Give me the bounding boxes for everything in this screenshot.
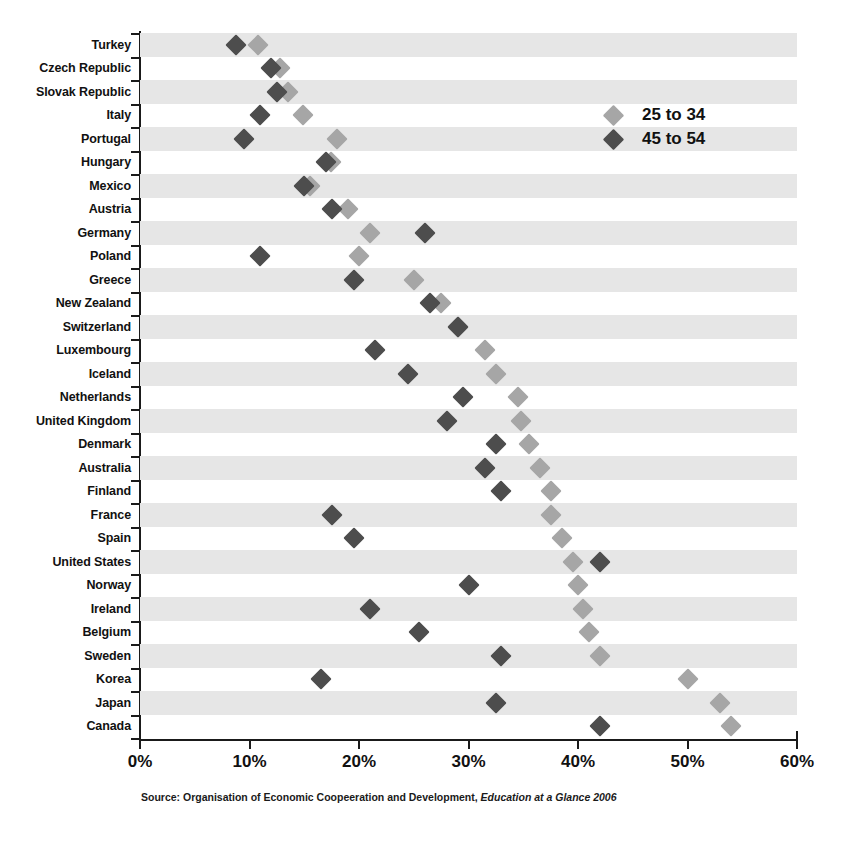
legend-label-25-34: 25 to 34 (642, 105, 705, 125)
category-label: Iceland (1, 368, 131, 381)
marker-25-34 (573, 598, 594, 619)
x-axis-tick (468, 741, 470, 749)
marker-25-34 (562, 551, 583, 572)
category-label: New Zealand (1, 297, 131, 310)
marker-45-54 (365, 340, 386, 361)
marker-45-54 (409, 622, 430, 643)
source-prefix: Source: Organisation of Economic Coopeer… (141, 791, 481, 803)
marker-25-34 (507, 387, 528, 408)
marker-45-54 (491, 481, 512, 502)
category-label: Switzerland (1, 321, 131, 334)
marker-25-34 (529, 457, 550, 478)
category-label: Luxembourg (1, 344, 131, 357)
category-label: Spain (1, 532, 131, 545)
legend: 25 to 34 45 to 54 (606, 103, 766, 151)
y-axis-tick (131, 480, 140, 482)
y-axis-tick (131, 315, 140, 317)
legend-label-45-54: 45 to 54 (642, 129, 705, 149)
marker-45-54 (589, 551, 610, 572)
y-axis-tick (131, 574, 140, 576)
tertiary-attainment-scatter-chart: TurkeyCzech RepublicSlovak RepublicItaly… (0, 0, 847, 842)
y-axis-tick (131, 174, 140, 176)
marker-25-34 (293, 105, 314, 126)
category-label: Germany (1, 227, 131, 240)
category-label: Ireland (1, 603, 131, 616)
marker-25-34 (551, 528, 572, 549)
x-axis-tick (249, 741, 251, 749)
category-label: Denmark (1, 438, 131, 451)
marker-25-34 (567, 575, 588, 596)
diamond-light-icon (603, 105, 624, 126)
y-axis-tick (131, 151, 140, 153)
category-label: Italy (1, 109, 131, 122)
x-axis-tick-label: 60% (780, 752, 814, 772)
category-label: Netherlands (1, 391, 131, 404)
marker-25-34 (348, 246, 369, 267)
y-axis-tick (131, 691, 140, 693)
marker-25-34 (248, 34, 269, 55)
marker-45-54 (250, 246, 271, 267)
y-axis-tick (131, 80, 140, 82)
marker-25-34 (359, 222, 380, 243)
y-axis-category-labels: TurkeyCzech RepublicSlovak RepublicItaly… (0, 33, 131, 738)
category-label: Slovak Republic (1, 86, 131, 99)
marker-25-34 (326, 128, 347, 149)
source-note: Source: Organisation of Economic Coopeer… (141, 791, 617, 803)
category-label: Austria (1, 203, 131, 216)
category-label: Japan (1, 697, 131, 710)
category-label: Mexico (1, 180, 131, 193)
category-label: Greece (1, 274, 131, 287)
marker-45-54 (485, 692, 506, 713)
y-axis-tick (131, 527, 140, 529)
y-axis-tick (131, 503, 140, 505)
y-axis-tick (131, 245, 140, 247)
marker-25-34 (578, 622, 599, 643)
y-axis-tick (131, 668, 140, 670)
category-label: France (1, 509, 131, 522)
marker-25-34 (721, 716, 742, 737)
x-axis-tick-label: 30% (451, 752, 485, 772)
marker-25-34 (589, 645, 610, 666)
marker-45-54 (447, 316, 468, 337)
marker-25-34 (510, 410, 531, 431)
x-axis-tick (139, 741, 141, 749)
marker-45-54 (310, 669, 331, 690)
marker-45-54 (452, 387, 473, 408)
marker-45-54 (398, 363, 419, 384)
category-label: Sweden (1, 650, 131, 663)
marker-45-54 (233, 128, 254, 149)
y-axis-tick (131, 198, 140, 200)
x-axis-tick (358, 741, 360, 749)
marker-45-54 (436, 410, 457, 431)
marker-25-34 (710, 692, 731, 713)
y-axis-tick (131, 57, 140, 59)
category-label: Korea (1, 673, 131, 686)
marker-45-54 (474, 457, 495, 478)
y-axis-tick (131, 33, 140, 35)
marker-45-54 (491, 645, 512, 666)
marker-25-34 (403, 269, 424, 290)
x-axis-tick-label: 0% (128, 752, 153, 772)
category-label: Belgium (1, 626, 131, 639)
x-axis-tick-label: 10% (232, 752, 266, 772)
marker-45-54 (250, 105, 271, 126)
category-label: United States (1, 556, 131, 569)
x-axis-tick (796, 741, 798, 749)
category-label: Turkey (1, 39, 131, 52)
category-label: Canada (1, 720, 131, 733)
y-axis-tick (131, 386, 140, 388)
marker-45-54 (343, 269, 364, 290)
category-label: United Kingdom (1, 415, 131, 428)
category-label: Portugal (1, 133, 131, 146)
y-axis-tick (131, 221, 140, 223)
y-axis-tick (131, 433, 140, 435)
y-axis-tick (131, 550, 140, 552)
marker-25-34 (485, 363, 506, 384)
x-axis-tick-label: 40% (561, 752, 595, 772)
source-title: Education at a Glance 2006 (481, 791, 617, 803)
diamond-dark-icon (603, 129, 624, 150)
marker-25-34 (540, 504, 561, 525)
marker-45-54 (321, 504, 342, 525)
marker-45-54 (359, 598, 380, 619)
marker-45-54 (589, 716, 610, 737)
